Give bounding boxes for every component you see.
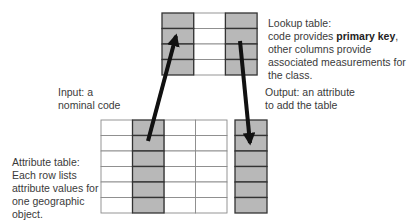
caption-text: code provides [268,30,336,42]
shaded-cell [225,13,257,29]
table-cell [194,29,226,45]
input-caption: Input: a nominal code [58,86,120,112]
table-cell [196,198,228,214]
table-cell [101,198,133,214]
lookup-table-caption: Lookup table: code provides primary key,… [268,17,406,82]
table-cell [196,136,228,152]
shaded-cell [162,44,194,60]
shaded-cell [235,182,267,198]
caption-line: to add the table [265,99,355,112]
shaded-cell [133,182,165,198]
shaded-cell [162,29,194,45]
table-cell [164,136,196,152]
caption-line: Output: an attribute [265,86,355,99]
caption-line: associated measurements for [268,56,406,69]
shaded-cell [133,198,165,214]
caption-line: attribute values for [12,182,98,195]
table-cell [196,151,228,167]
shaded-cell [235,151,267,167]
table-cell [101,151,133,167]
caption-line: the class. [268,69,406,82]
output-caption: Output: an attribute to add the table [265,86,355,112]
primary-key-term: primary key [336,30,395,42]
table-cell [101,120,133,136]
table-cell [101,167,133,183]
table-cell [194,44,226,60]
table-cell [164,182,196,198]
caption-text: , [395,30,398,42]
caption-line: code provides primary key, [268,30,406,43]
caption-line: nominal code [58,99,120,112]
table-cell [164,151,196,167]
table-cell [196,182,228,198]
table-cell [164,198,196,214]
table-cell [196,167,228,183]
table-cell [194,13,226,29]
caption-line: Input: a [58,86,120,99]
caption-line: Lookup table: [268,17,406,30]
caption-line: object. [12,208,98,221]
table-cell [164,167,196,183]
shaded-cell [133,151,165,167]
shaded-cell [235,198,267,214]
table-cell [101,136,133,152]
caption-line: one geographic [12,195,98,208]
shaded-cell [133,167,165,183]
caption-line: Each row lists [12,169,98,182]
attribute-table [101,120,227,213]
shaded-cell [162,13,194,29]
table-cell [196,120,228,136]
attribute-table-caption: Attribute table: Each row lists attribut… [12,156,98,221]
shaded-cell [235,167,267,183]
caption-line: other columns provide [268,43,406,56]
table-cell [164,120,196,136]
table-cell [101,182,133,198]
caption-line: Attribute table: [12,156,98,169]
table-cell [194,60,226,76]
